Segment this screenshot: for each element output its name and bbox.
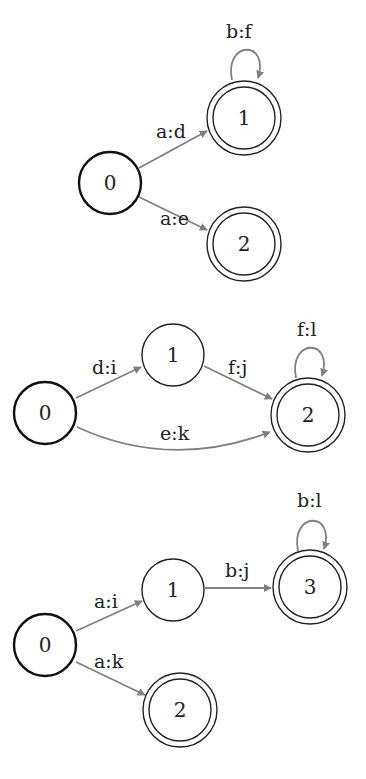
transition-label: a:d bbox=[156, 120, 186, 142]
transition-0-1: d:i bbox=[76, 356, 141, 398]
transition-1-1-loop: b:f bbox=[226, 20, 260, 80]
fst-diagrams-canvas: a:d a:e b:f 0 1 2 d:i bbox=[0, 0, 366, 779]
svg-text:2: 2 bbox=[302, 403, 315, 427]
transition-label: a:k bbox=[94, 650, 124, 672]
state-2-final: 2 bbox=[143, 673, 217, 747]
transition-3-3-loop: b:l bbox=[297, 489, 326, 551]
state-3-final: 3 bbox=[273, 550, 347, 624]
transition-0-1: a:d bbox=[139, 120, 207, 168]
transition-0-2-curved: e:k bbox=[77, 422, 270, 450]
transition-1-2: f:j bbox=[204, 356, 272, 399]
state-1-final: 1 bbox=[207, 81, 281, 155]
fst-diagram-3: a:i b:j b:l a:k 0 1 3 2 bbox=[14, 489, 347, 747]
state-2-final: 2 bbox=[271, 378, 345, 452]
transition-label: f:j bbox=[228, 356, 247, 378]
svg-text:0: 0 bbox=[39, 401, 52, 425]
fst-diagram-1: a:d a:e b:f 0 1 2 bbox=[79, 20, 281, 281]
transition-label: a:e bbox=[160, 207, 189, 229]
transition-2-2-loop: f:l bbox=[295, 318, 324, 378]
state-2-final: 2 bbox=[207, 207, 281, 281]
svg-text:1: 1 bbox=[167, 578, 180, 602]
svg-text:0: 0 bbox=[39, 633, 52, 657]
transition-1-3: b:j bbox=[205, 559, 271, 588]
transition-0-2: a:e bbox=[139, 197, 207, 230]
svg-text:3: 3 bbox=[304, 575, 317, 599]
transition-0-1: a:i bbox=[76, 590, 142, 631]
fst-diagram-2: d:i f:j e:k f:l 0 1 2 bbox=[14, 318, 345, 452]
svg-text:2: 2 bbox=[238, 232, 251, 256]
state-1: 1 bbox=[142, 559, 204, 621]
transition-0-2: a:k bbox=[76, 650, 145, 695]
state-1: 1 bbox=[142, 324, 204, 386]
transition-label: a:i bbox=[94, 590, 118, 612]
svg-text:0: 0 bbox=[104, 171, 117, 195]
transition-label: b:f bbox=[226, 20, 254, 42]
transition-label: f:l bbox=[297, 318, 317, 340]
transition-label: b:j bbox=[225, 559, 249, 581]
svg-text:2: 2 bbox=[174, 698, 187, 722]
transition-label: d:i bbox=[92, 356, 117, 378]
transition-label: e:k bbox=[160, 422, 190, 444]
transition-label: b:l bbox=[297, 489, 322, 511]
state-0-start: 0 bbox=[14, 382, 76, 444]
svg-text:1: 1 bbox=[238, 106, 251, 130]
state-0-start: 0 bbox=[79, 152, 141, 214]
svg-text:1: 1 bbox=[167, 343, 180, 367]
state-0-start: 0 bbox=[14, 614, 76, 676]
